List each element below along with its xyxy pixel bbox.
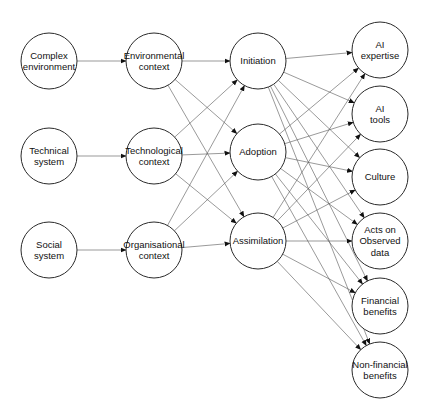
flow-diagram: ComplexenvironmentTechnicalsystemSocials…	[0, 0, 431, 418]
node-label: Organisational	[123, 239, 184, 250]
edge-n9-n14	[283, 254, 356, 293]
node-label: Acts on	[364, 224, 396, 235]
node-social-system: Socialsystem	[21, 222, 77, 278]
node-technical-system: Technicalsystem	[21, 128, 77, 184]
edges	[77, 53, 370, 350]
node-ai-expertise: AIexpertise	[352, 22, 408, 78]
node-label: benefits	[363, 306, 397, 317]
node-label: Environmental	[124, 50, 185, 61]
edge-n9-n15	[277, 261, 361, 349]
edge-n8-n15	[272, 176, 367, 345]
edge-n7-n10	[286, 53, 352, 59]
node-label: AI	[376, 39, 385, 50]
node-non-financial-benefits: Non-financialbenefits	[352, 342, 408, 398]
edge-n7-n12	[278, 80, 359, 157]
node-adoption: Adoption	[230, 124, 286, 180]
node-organisational-context: Organisationalcontext	[123, 222, 184, 278]
node-ai-tools: AItools	[352, 86, 408, 142]
node-label: Social	[36, 239, 62, 250]
node-assimilation: Assimilation	[230, 213, 286, 269]
node-label: environment	[23, 61, 76, 72]
node-financial-benefits: Financialbenefits	[352, 278, 408, 334]
node-culture: Culture	[352, 149, 408, 205]
node-label: expertise	[361, 50, 400, 61]
node-label: data	[371, 247, 390, 258]
edge-n8-n12	[285, 158, 352, 172]
node-complex-environment: Complexenvironment	[21, 33, 77, 89]
edge-n5-n7	[175, 80, 238, 137]
node-label: Adoption	[239, 146, 277, 157]
node-label: system	[34, 250, 64, 261]
edge-n7-n11	[284, 72, 355, 103]
node-label: context	[139, 250, 170, 261]
edge-n7-n13	[274, 84, 365, 218]
node-label: Technical	[29, 145, 69, 156]
node-label: Complex	[30, 50, 68, 61]
edge-n4-n8	[175, 79, 237, 133]
edge-n8-n14	[275, 174, 362, 284]
edge-n9-n11	[277, 134, 360, 221]
edge-n6-n9	[182, 243, 230, 247]
node-label: Culture	[365, 171, 396, 182]
node-label: tools	[370, 114, 390, 125]
edge-n9-n10	[273, 74, 365, 218]
node-label: Non-financial	[352, 359, 407, 370]
node-initiation: Initiation	[230, 33, 286, 89]
node-environmental-context: Environmentalcontext	[124, 33, 185, 89]
node-label: Observed	[359, 235, 400, 246]
edge-n5-n8	[182, 153, 230, 155]
nodes: ComplexenvironmentTechnicalsystemSocials…	[21, 22, 408, 398]
node-label: system	[34, 156, 64, 167]
node-label: Initiation	[240, 55, 275, 66]
node-label: Assimilation	[233, 235, 284, 246]
node-label: AI	[376, 103, 385, 114]
node-label: Technological	[125, 145, 183, 156]
node-label: Financial	[361, 295, 399, 306]
edge-n9-n12	[283, 190, 355, 228]
node-label: context	[139, 156, 170, 167]
node-acts-on-observed-data: Acts onObserveddata	[352, 213, 408, 269]
node-label: benefits	[363, 370, 397, 381]
node-technological-context: Technologicalcontext	[125, 128, 183, 184]
edge-n8-n11	[285, 122, 354, 143]
node-label: context	[139, 61, 170, 72]
